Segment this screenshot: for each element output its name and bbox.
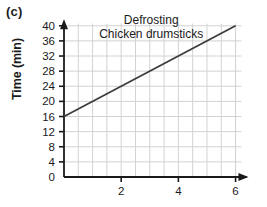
- y-axis-tick-label: 20: [42, 95, 55, 107]
- y-axis-tick-label: 28: [42, 65, 55, 77]
- chart-title-line: Chicken drumsticks: [99, 27, 203, 41]
- chart-figure: (c) Time (min) 0481216202428323640246 De…: [0, 0, 267, 207]
- chart-title-line: Defrosting: [124, 13, 179, 27]
- y-axis-tick-label: 32: [42, 50, 55, 62]
- y-axis-tick-label: 36: [42, 35, 55, 47]
- y-axis-tick-label: 24: [42, 80, 55, 92]
- gridlines: [64, 24, 241, 177]
- axis-tick-labels: 0481216202428323640246: [42, 20, 239, 197]
- plot-area: 0481216202428323640246 DefrostingChicken…: [0, 0, 267, 207]
- y-axis-tick-label: 8: [49, 141, 55, 153]
- x-axis-tick-label: 2: [118, 185, 124, 197]
- x-axis-arrowhead: [238, 173, 248, 181]
- x-axis-tick-label: 4: [175, 185, 182, 197]
- axes: [60, 19, 248, 181]
- y-axis-tick-label: 12: [42, 126, 55, 138]
- y-axis-tick-label: 4: [49, 156, 56, 168]
- axis-ticks: [59, 26, 236, 182]
- x-axis-tick-label: 6: [232, 185, 238, 197]
- y-axis-arrowhead: [60, 19, 68, 29]
- y-axis-tick-label: 16: [42, 111, 55, 123]
- y-axis-tick-label: 0: [49, 171, 55, 183]
- y-axis-tick-label: 40: [42, 20, 55, 32]
- chart-title: DefrostingChicken drumsticks: [99, 13, 203, 41]
